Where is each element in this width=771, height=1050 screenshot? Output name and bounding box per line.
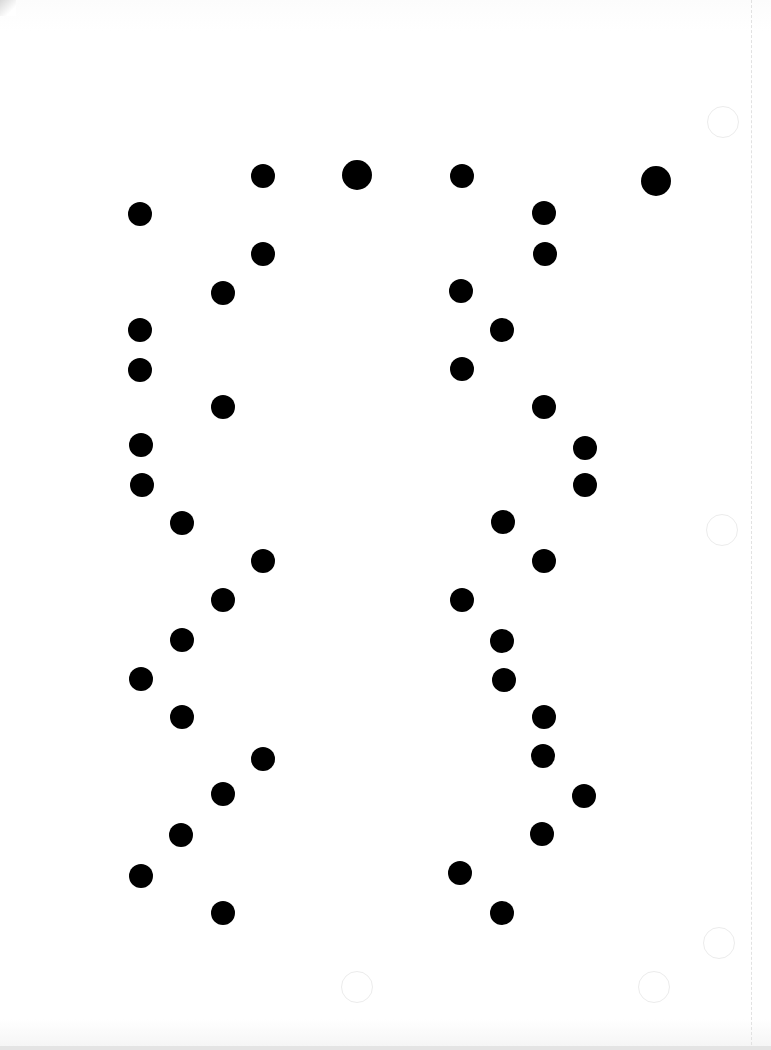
dot	[129, 667, 153, 691]
dot	[128, 202, 152, 226]
dot	[211, 395, 235, 419]
dot	[573, 436, 597, 460]
faint-circle	[341, 971, 373, 1003]
faint-circle	[706, 514, 738, 546]
dot	[251, 747, 275, 771]
dot	[532, 549, 556, 573]
dot	[170, 705, 194, 729]
dot	[573, 473, 597, 497]
dot	[129, 433, 153, 457]
dot	[530, 822, 554, 846]
dot	[342, 160, 372, 190]
dot	[450, 588, 474, 612]
dot	[572, 784, 596, 808]
dot	[533, 242, 557, 266]
dot	[128, 318, 152, 342]
dot	[450, 357, 474, 381]
dot	[170, 511, 194, 535]
dot	[169, 823, 193, 847]
dot	[448, 861, 472, 885]
dot	[251, 549, 275, 573]
dot	[450, 164, 474, 188]
dot	[490, 629, 514, 653]
dot	[532, 705, 556, 729]
dot	[211, 588, 235, 612]
faint-circle	[638, 971, 670, 1003]
dot	[492, 668, 516, 692]
dot	[128, 358, 152, 382]
faint-circle	[707, 106, 739, 138]
dot	[532, 201, 556, 225]
dot	[251, 242, 275, 266]
dot	[490, 901, 514, 925]
perforation-line	[751, 0, 752, 1050]
scanned-dot-pattern-page	[0, 0, 771, 1050]
dot	[130, 473, 154, 497]
faint-circle	[703, 927, 735, 959]
page-corner-fold	[0, 0, 16, 16]
dot	[449, 279, 473, 303]
dot	[251, 164, 275, 188]
dot	[211, 901, 235, 925]
dot	[211, 281, 235, 305]
dot	[491, 510, 515, 534]
page-bottom-edge	[0, 1046, 771, 1050]
dot	[641, 166, 671, 196]
dot	[490, 318, 514, 342]
dot	[531, 744, 555, 768]
dot	[170, 628, 194, 652]
dot	[532, 395, 556, 419]
dot	[211, 782, 235, 806]
dot	[129, 864, 153, 888]
